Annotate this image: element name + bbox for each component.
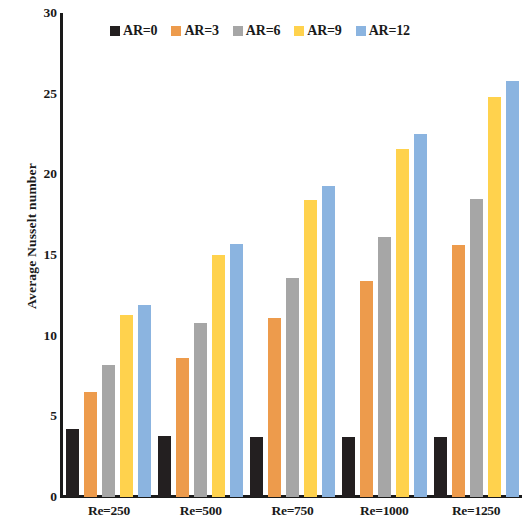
chart-container: Average Nusselt number 051015202530 AR=0… <box>0 0 523 527</box>
bar[interactable] <box>250 437 263 497</box>
x-axis-tick-labels: Re=250Re=500Re=750Re=1000Re=1250 <box>63 503 522 527</box>
bar[interactable] <box>194 323 207 497</box>
bar[interactable] <box>158 436 171 497</box>
bar[interactable] <box>452 245 465 497</box>
bar[interactable] <box>396 149 409 497</box>
legend-label: AR=3 <box>184 23 218 39</box>
bar[interactable] <box>286 278 299 497</box>
y-axis-tick-label: 25 <box>9 87 57 101</box>
bar-group <box>63 13 155 497</box>
bar[interactable] <box>176 358 189 497</box>
bar[interactable] <box>470 199 483 497</box>
plot-area <box>63 13 522 497</box>
bar-group <box>155 13 247 497</box>
legend-label: AR=12 <box>369 23 410 39</box>
chart-legend: AR=0AR=3AR=6AR=9AR=12 <box>110 23 410 39</box>
legend-item[interactable]: AR=9 <box>294 23 341 39</box>
legend-swatch-icon <box>356 26 366 36</box>
y-axis-tick-label: 30 <box>9 6 57 20</box>
bar[interactable] <box>212 255 225 497</box>
bar[interactable] <box>342 437 355 497</box>
legend-item[interactable]: AR=6 <box>233 23 280 39</box>
legend-item[interactable]: AR=0 <box>110 23 157 39</box>
bar[interactable] <box>304 200 317 497</box>
legend-swatch-icon <box>294 26 304 36</box>
bar[interactable] <box>268 318 281 497</box>
y-axis-tick-label: 20 <box>9 167 57 181</box>
bar-group <box>247 13 339 497</box>
x-axis-tick-label: Re=250 <box>63 503 155 519</box>
bar-group <box>430 13 522 497</box>
bar[interactable] <box>434 437 447 497</box>
x-axis-tick-label: Re=750 <box>247 503 339 519</box>
bar[interactable] <box>414 134 427 497</box>
legend-label: AR=6 <box>246 23 280 39</box>
x-axis-tick-label: Re=1000 <box>338 503 430 519</box>
y-axis-tick-label: 10 <box>9 329 57 343</box>
bar[interactable] <box>66 429 79 497</box>
bar[interactable] <box>506 81 519 497</box>
legend-swatch-icon <box>233 26 243 36</box>
x-axis-tick-label: Re=500 <box>155 503 247 519</box>
bar[interactable] <box>120 315 133 497</box>
bar[interactable] <box>230 244 243 497</box>
bar[interactable] <box>102 365 115 497</box>
y-axis-tick-labels: 051015202530 <box>0 0 57 527</box>
legend-label: AR=9 <box>307 23 341 39</box>
bar[interactable] <box>322 186 335 497</box>
legend-item[interactable]: AR=12 <box>356 23 410 39</box>
y-axis-tick-label: 5 <box>9 409 57 423</box>
bar[interactable] <box>488 97 501 497</box>
y-axis-tick-label: 0 <box>9 490 57 504</box>
bar[interactable] <box>138 305 151 497</box>
bar[interactable] <box>378 237 391 497</box>
legend-swatch-icon <box>110 26 120 36</box>
bar-group <box>338 13 430 497</box>
legend-item[interactable]: AR=3 <box>171 23 218 39</box>
y-axis-tick-label: 15 <box>9 248 57 262</box>
bar[interactable] <box>360 281 373 497</box>
legend-swatch-icon <box>171 26 181 36</box>
legend-label: AR=0 <box>123 23 157 39</box>
x-axis-tick-label: Re=1250 <box>430 503 522 519</box>
bar[interactable] <box>84 392 97 497</box>
